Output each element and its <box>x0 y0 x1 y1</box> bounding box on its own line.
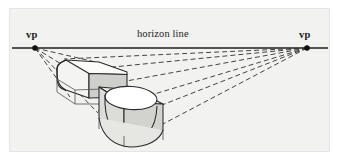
ray-right-1 <box>64 48 307 59</box>
vp-right-dot <box>304 45 310 51</box>
vp-left-label: vp <box>26 30 38 41</box>
vp-right-label: vp <box>299 30 311 41</box>
vp-left-dot <box>32 45 38 51</box>
cube-with-cylinder-front <box>99 85 163 147</box>
ray-right-3 <box>99 48 307 86</box>
perspective-drawing <box>0 0 339 162</box>
horizon-line-label: horizon line <box>137 29 189 40</box>
perspective-figure: vp horizon line vp <box>0 0 339 162</box>
